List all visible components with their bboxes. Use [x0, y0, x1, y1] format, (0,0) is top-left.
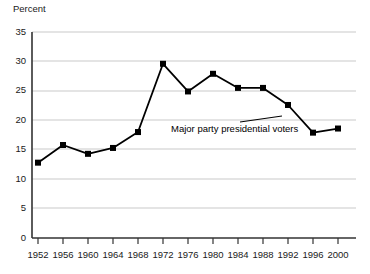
data-point-1988 — [260, 85, 266, 91]
axis-lines — [32, 32, 356, 238]
data-point-1984 — [235, 85, 241, 91]
data-point-1952 — [35, 160, 41, 166]
data-point-1992 — [285, 102, 291, 108]
data-point-1976 — [185, 88, 191, 94]
x-tick-marks — [38, 238, 338, 244]
data-point-1968 — [135, 129, 141, 135]
annotation-leader-line — [240, 116, 282, 122]
data-point-2000 — [335, 126, 341, 132]
data-point-1996 — [310, 130, 316, 136]
plot-area — [0, 0, 370, 274]
series-line-major-party-presidential-voters — [38, 64, 338, 163]
data-point-1972 — [160, 61, 166, 67]
line-chart: Percent 35 30 25 20 15 10 5 0 1952 1956 … — [0, 0, 370, 274]
data-point-1960 — [85, 151, 91, 157]
gridlines — [32, 32, 356, 208]
data-point-1964 — [110, 145, 116, 151]
data-point-1956 — [60, 142, 66, 148]
data-point-1980 — [210, 71, 216, 77]
